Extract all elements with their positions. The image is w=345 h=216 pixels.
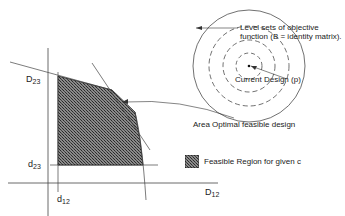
d12-label: d12 [57, 195, 70, 206]
level-sets-label-line1: Level sets of objective [240, 23, 319, 32]
D23-label: D23 [26, 75, 40, 86]
current-design-label: Current Design (p) [235, 75, 301, 84]
D12-label: D12 [205, 188, 219, 199]
level-sets-label-line2: function (B = identity matrix). [240, 32, 342, 41]
current-design-point [248, 65, 251, 68]
optimal-leader [124, 101, 234, 118]
d23-label: d23 [28, 160, 41, 171]
diagram-canvas: Level sets of objective function (B = id… [0, 0, 345, 216]
legend-label: Feasible Region for given c [204, 157, 301, 166]
legend-swatch [185, 155, 199, 168]
optimal-design-label: Area Optimal feasible design [193, 120, 295, 129]
